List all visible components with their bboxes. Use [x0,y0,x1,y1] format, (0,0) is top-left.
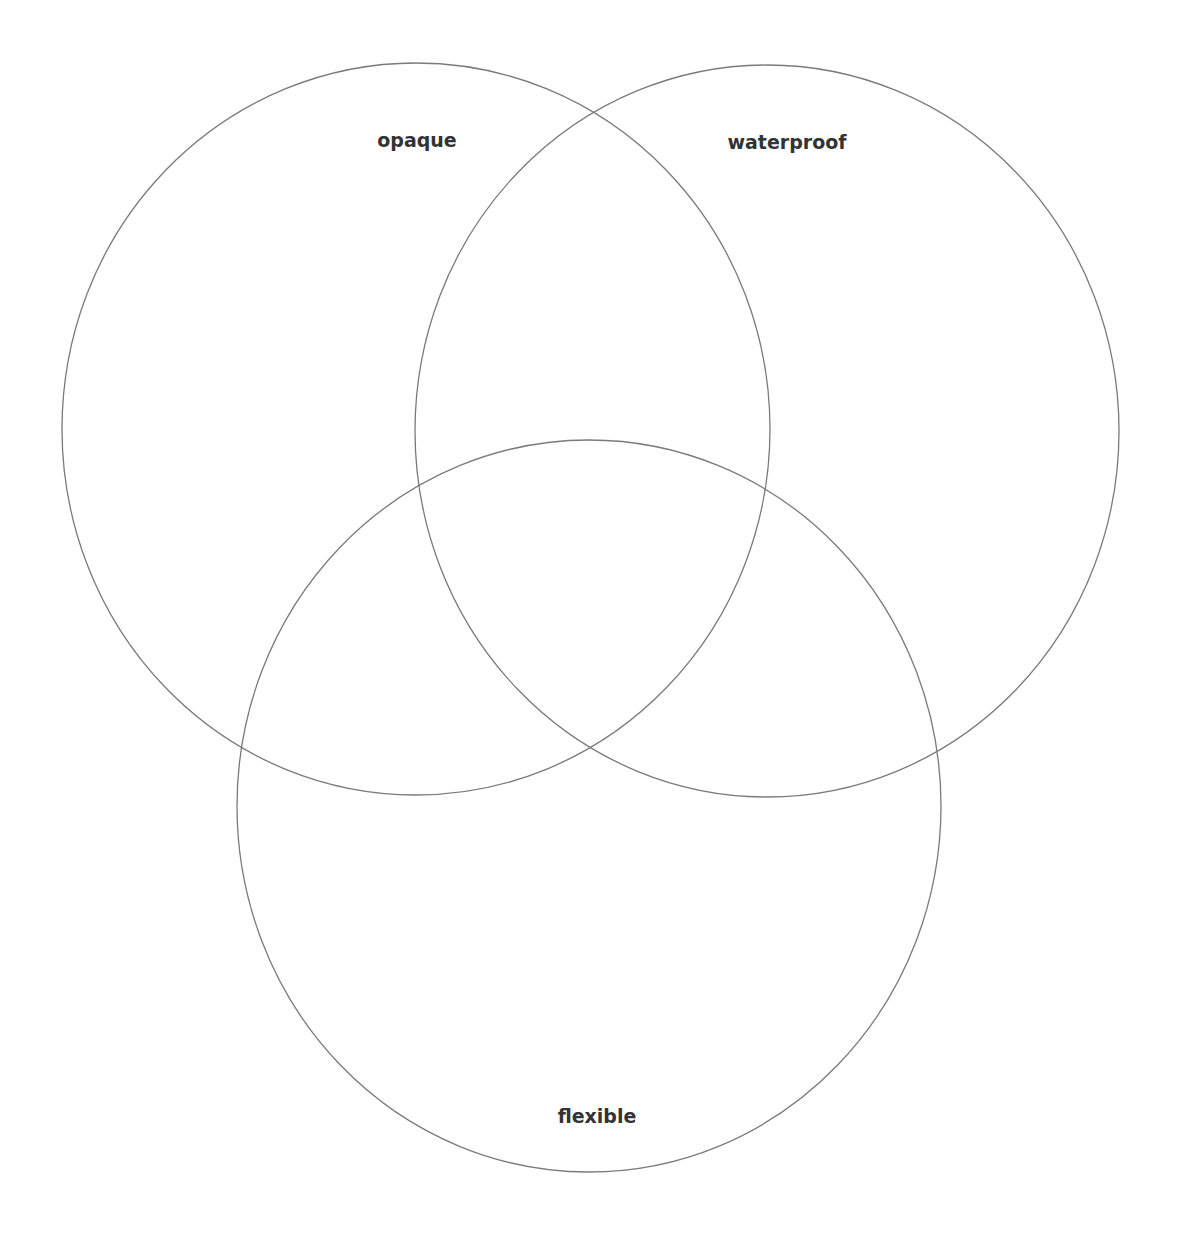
set-circle-flexible [237,440,941,1172]
set-circle-waterproof [415,65,1119,797]
venn-diagram [0,0,1177,1237]
set-circle-opaque [62,63,770,795]
set-label-opaque: opaque [377,129,457,151]
set-label-waterproof: waterproof [727,131,846,153]
set-label-flexible: flexible [558,1105,637,1127]
